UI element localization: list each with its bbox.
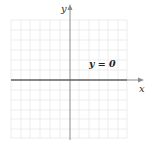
grid: [11, 20, 127, 138]
x-axis-label: x: [139, 83, 145, 94]
y-axis-label: y: [60, 3, 67, 14]
y-axis-arrow-icon: [68, 4, 73, 10]
coordinate-plane: y x y = 0: [0, 0, 147, 147]
x-axis-arrow-icon: [138, 78, 144, 83]
equation-label: y = 0: [88, 58, 116, 69]
